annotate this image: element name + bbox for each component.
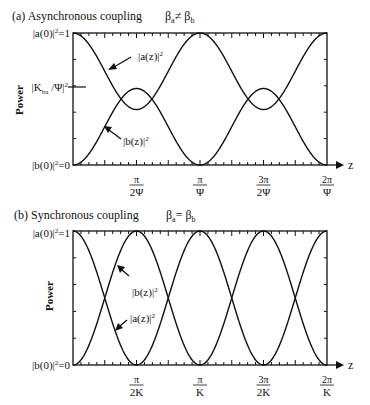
xtick-numerator: π: [197, 374, 202, 385]
xtick-numerator: π: [134, 374, 139, 385]
xtick-denominator: 2Ψ: [130, 186, 145, 198]
panel-b-arrow-b: [122, 270, 129, 276]
panel-b-x-arrow-icon: [336, 361, 344, 369]
xtick-numerator: 2π: [322, 174, 332, 185]
panel-b-curve-a: [73, 231, 327, 365]
panel-b-xlabel: z: [348, 358, 353, 372]
xtick-denominator: Ψ: [196, 186, 205, 198]
xtick-denominator: Ψ: [323, 186, 332, 198]
xtick-numerator: 3π: [258, 374, 268, 385]
panel-a-ytick-top: |a(0)|2=1: [33, 27, 70, 40]
xtick-denominator: K: [196, 386, 204, 398]
panel-b-synchronous: (b) Synchronous coupling βa= βb |a(0)|2=…: [14, 208, 353, 398]
panel-a-ylabel: Power: [13, 85, 25, 115]
panel-a-curve-b: [73, 88, 327, 165]
panel-b-ytick-bottom: |b(0)|2=0: [32, 359, 70, 372]
panel-a-ytick-bottom: |b(0)|2=0: [32, 159, 70, 172]
panel-b-condition: βa= βb: [166, 208, 196, 224]
panel-b-xtick-labels: π2KπK3π2K2πK: [130, 374, 335, 398]
panel-b-ytick-top: |a(0)|2=1: [33, 227, 70, 240]
panel-a-curve-a: [73, 33, 327, 110]
panel-b-title: (b) Synchronous coupling: [14, 208, 139, 222]
panel-a-xlabel: z: [348, 158, 353, 172]
panel-b-curve-b: [73, 231, 327, 365]
panel-b-frame: [73, 231, 327, 365]
panel-a-annot-b: |b(z)|2: [123, 135, 149, 148]
panel-a-title: (a) Asynchronous coupling: [12, 9, 142, 23]
xtick-denominator: K: [323, 386, 331, 398]
panel-a-frame: [73, 33, 327, 165]
figure: (a) Asynchronous coupling βa≠ βb |a(0)|2…: [0, 0, 370, 405]
panel-b-arrow-a: [120, 320, 127, 326]
panel-a-condition: βa≠ βb: [165, 9, 194, 25]
panel-a-arrow-b: [109, 130, 121, 139]
xtick-denominator: 2Ψ: [257, 186, 272, 198]
panel-a-xtick-labels: π2ΨπΨ3π2Ψ2πΨ: [130, 174, 335, 198]
panel-a-annot-a: |a(z)|2: [138, 50, 164, 63]
panel-a-ticks: [73, 33, 327, 165]
xtick-numerator: π: [134, 174, 139, 185]
panel-b-ticks: [73, 231, 327, 365]
xtick-denominator: 2K: [257, 386, 271, 398]
panel-a-arrow-a: [114, 57, 131, 67]
xtick-numerator: 3π: [258, 174, 268, 185]
xtick-denominator: 2K: [130, 386, 144, 398]
panel-a-arrow-a-head-icon: [108, 63, 117, 70]
xtick-numerator: π: [197, 174, 202, 185]
panel-b-ylabel: Power: [43, 281, 55, 311]
panel-b-annot-b: |b(z)|2: [132, 286, 158, 299]
panel-a-x-arrow-icon: [336, 161, 344, 169]
panel-a-ytick-mid: |Kba /Ψ|2: [32, 81, 69, 96]
xtick-numerator: 2π: [322, 374, 332, 385]
panel-a-asynchronous: (a) Asynchronous coupling βa≠ βb |a(0)|2…: [12, 9, 353, 198]
panel-b-annot-a: |a(z)|2: [130, 312, 156, 325]
